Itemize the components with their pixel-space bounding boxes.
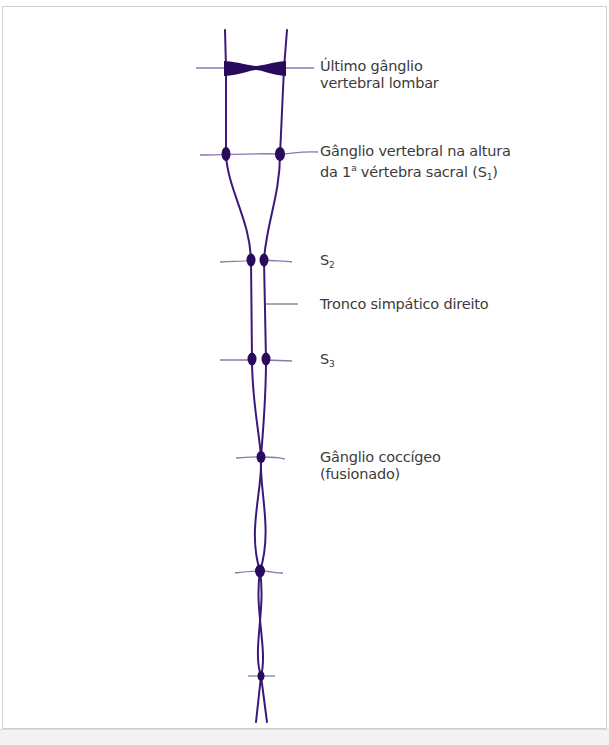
label-line: da 1a vértebra sacral (S1): [320, 160, 511, 186]
label-text: Tronco simpático direito: [320, 296, 488, 312]
lower-ganglion-1: [255, 565, 265, 578]
label-s3: S3: [320, 351, 335, 373]
label-line: (fusionado): [320, 466, 441, 483]
s3-ganglion-right: [262, 353, 271, 366]
label-s1-ganglion: Gânglio vertebral na altura da 1a vérteb…: [320, 143, 511, 186]
coccygeal-ganglion: [257, 451, 266, 463]
rami-lines: [196, 68, 318, 676]
s3-ganglion-left: [248, 353, 257, 366]
last-lumbar-ganglion: [224, 61, 286, 76]
label-right-sympathetic-trunk: Tronco simpático direito: [320, 296, 488, 313]
label-coccygeal-ganglion: Gânglio coccígeo (fusionado): [320, 449, 441, 483]
label-line: Último gânglio: [320, 58, 439, 75]
label-text: vértebra sacral (S: [356, 164, 486, 180]
s2-ganglion-right: [260, 254, 269, 267]
subscript: 3: [329, 359, 335, 369]
label-line: Gânglio coccígeo: [320, 449, 441, 466]
s1-ganglion-right: [275, 147, 285, 161]
label-line: Gânglio vertebral na altura: [320, 143, 511, 160]
label-text: S: [320, 351, 329, 367]
s2-ganglion-left: [247, 254, 256, 267]
label-text: da 1: [320, 164, 351, 180]
label-text: ): [492, 164, 497, 180]
label-line: vertebral lombar: [320, 75, 439, 92]
lower-ganglion-2: [258, 671, 265, 681]
label-text: S: [320, 252, 329, 268]
label-last-lumbar-ganglion: Último gânglio vertebral lombar: [320, 58, 439, 92]
subscript: 2: [329, 260, 335, 270]
s1-ganglion-left: [222, 147, 231, 161]
trunk-lines: [225, 30, 287, 722]
label-s2: S2: [320, 252, 335, 274]
